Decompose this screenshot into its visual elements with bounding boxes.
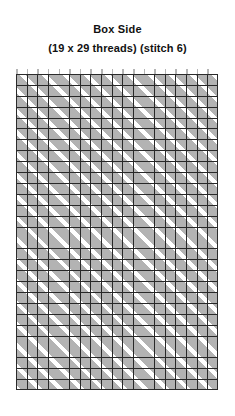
page-title: Box Side [0, 22, 235, 37]
chart-page: Box Side (19 x 29 threads) (stitch 6) [0, 0, 235, 416]
grid-border [16, 74, 218, 390]
title-block: Box Side (19 x 29 threads) (stitch 6) [0, 22, 235, 56]
stitch-chart-grid [16, 74, 218, 390]
chart-subtitle: (19 x 29 threads) (stitch 6) [0, 41, 235, 56]
